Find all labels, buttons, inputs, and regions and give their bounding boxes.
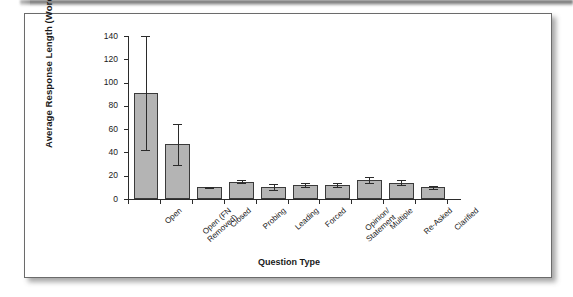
error-bar-cap-lower — [333, 187, 342, 188]
error-bar-cap-upper — [173, 124, 182, 125]
y-axis-line — [128, 36, 129, 199]
scan-edge-artifact — [20, 0, 573, 6]
figure-page: Average Response Length (Words) Question… — [0, 0, 573, 297]
error-bar-cap-lower — [397, 185, 406, 186]
y-tick-label: 80 — [92, 100, 118, 110]
x-tick-mark — [351, 200, 352, 204]
y-tick-mark — [124, 59, 128, 60]
x-tick-mark — [319, 200, 320, 204]
error-bar-cap-upper — [141, 36, 150, 37]
error-bar-cap-upper — [365, 177, 374, 178]
error-bar-line — [178, 124, 179, 165]
error-bar-cap-lower — [141, 150, 150, 151]
error-bar-cap-upper — [237, 180, 246, 181]
error-bar-cap-lower — [365, 183, 374, 184]
bar — [229, 182, 254, 199]
error-bar-cap-upper — [333, 183, 342, 184]
x-tick-label: Open — [163, 206, 184, 226]
y-tick-label: 0 — [92, 194, 118, 204]
y-axis-title: Average Response Length (Words) — [43, 0, 54, 163]
error-bar-cap-lower — [269, 190, 278, 191]
x-tick-label: Leading — [293, 206, 320, 232]
scan-edge-fade — [0, 0, 30, 7]
x-tick-mark — [128, 200, 129, 204]
y-tick-mark — [124, 106, 128, 107]
x-tick-mark — [415, 200, 416, 204]
y-tick-mark — [124, 152, 128, 153]
error-bar-cap-lower — [173, 165, 182, 166]
y-tick-mark — [124, 176, 128, 177]
x-tick-mark — [160, 200, 161, 204]
y-tick-label: 20 — [92, 170, 118, 180]
x-tick-mark — [224, 200, 225, 204]
error-bar-cap-lower — [301, 187, 310, 188]
x-tick-mark — [256, 200, 257, 204]
x-tick-label: Clarified — [453, 206, 481, 232]
error-bar-cap-upper — [269, 184, 278, 185]
error-bar-cap-upper — [397, 180, 406, 181]
x-tick-label: Forced — [324, 206, 349, 229]
error-bar-cap-upper — [429, 186, 438, 187]
error-bar-cap-lower — [237, 183, 246, 184]
error-bar-cap-upper — [301, 183, 310, 184]
x-axis-line — [128, 199, 461, 200]
x-tick-mark — [447, 200, 448, 204]
y-tick-mark — [124, 129, 128, 130]
figure-panel: Average Response Length (Words) Question… — [24, 13, 552, 278]
y-tick-mark — [124, 83, 128, 84]
x-axis-title: Question Type — [25, 257, 553, 267]
y-tick-label: 120 — [92, 54, 118, 64]
plot-area: Average Response Length (Words) Question… — [25, 14, 551, 277]
bar — [197, 187, 222, 199]
error-bar-cap-lower — [205, 188, 214, 189]
x-tick-mark — [192, 200, 193, 204]
y-tick-label: 60 — [92, 124, 118, 134]
y-tick-label: 100 — [92, 77, 118, 87]
x-tick-label: Re-Asked — [422, 206, 454, 236]
error-bar-line — [146, 36, 147, 150]
x-tick-mark — [288, 200, 289, 204]
y-tick-label: 140 — [92, 31, 118, 41]
error-bar-cap-lower — [429, 189, 438, 190]
x-tick-label: Probing — [261, 206, 288, 231]
y-tick-mark — [124, 36, 128, 37]
x-tick-mark — [383, 200, 384, 204]
y-tick-label: 40 — [92, 147, 118, 157]
